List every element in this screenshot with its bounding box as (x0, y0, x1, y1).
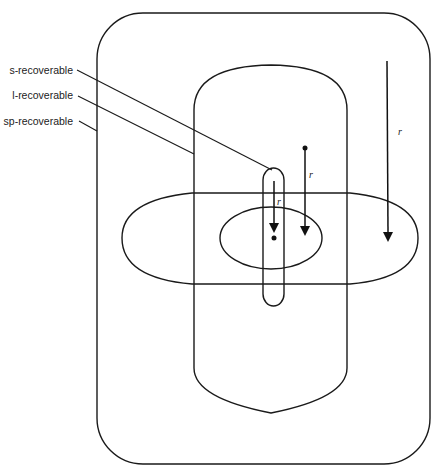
inner-arrow-head-icon (269, 223, 279, 233)
l-recoverable-label: l-recoverable (12, 89, 73, 101)
inner-arrow-label: r (277, 196, 281, 207)
sp-recoverable-label: sp-recoverable (4, 115, 74, 127)
s-recoverable-label: s-recoverable (9, 64, 73, 76)
outer-arrow-head-icon (383, 232, 393, 242)
l-recoverable-leader (78, 96, 194, 154)
middle-arrow-head-icon (300, 226, 310, 236)
sp-recoverable-leader (79, 121, 97, 131)
inner-arrow-end-dot (272, 236, 277, 241)
inner-ellipse-region (220, 207, 322, 269)
s-recoverable-leader (77, 70, 272, 170)
l-recoverable-region (194, 65, 347, 413)
outer-arrow-label: r (398, 126, 402, 137)
recoverability-diagram: s-recoverable l-recoverable sp-recoverab… (0, 0, 442, 476)
outer-arrow-line (387, 61, 388, 232)
middle-arrow-label: r (309, 169, 313, 180)
